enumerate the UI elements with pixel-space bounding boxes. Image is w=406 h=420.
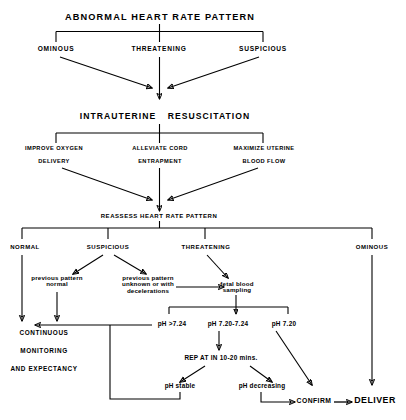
node-ph-decreasing: pH decreasing (239, 383, 286, 390)
connector-tier1-bracket (56, 24, 263, 42)
tier3-branch-suspicious: SUSPICIOUS (87, 244, 130, 250)
tier2-branch-alleviate-line2: ENTRAPMENT (138, 159, 182, 165)
tier3-branch-normal: NORMAL (10, 244, 40, 250)
connector-phdecreasing-to-confirm (261, 392, 295, 402)
outcome-monitoring-line1: CONTINUOUS (20, 330, 69, 337)
outcome-monitoring-line2: MONITORING (20, 348, 67, 355)
tier3-branch-ominous: OMINOUS (356, 244, 389, 250)
tier2-branch-improve-line2: DELIVERY (38, 159, 70, 165)
tier2-branch-improve-line1: IMPROVE OXYGEN (25, 146, 83, 152)
tier1-branch-ominous: OMINOUS (38, 46, 75, 53)
connector-tier1-converge (60, 57, 259, 99)
connector-tier2-converge (62, 168, 258, 211)
node-previous-pattern-unknown-line3: decelerations (122, 288, 174, 294)
outcome-continuous-monitoring: CONTINUOUS (20, 330, 69, 337)
connector-threatening-to-fbs (207, 255, 228, 278)
connector-suspicious-split (73, 255, 146, 274)
page-title: ABNORMAL HEART RATE PATTERN (65, 13, 255, 22)
outcome-deliver: DELIVER (354, 396, 396, 405)
connector-repeat-split (180, 366, 272, 382)
node-fetal-blood-sampling: fetal blood sampling (220, 281, 253, 294)
connector-tier2-bracket (56, 124, 263, 143)
node-ph-mid: pH 7.20-7.24 (208, 321, 249, 328)
node-ph-high: pH >7.24 (158, 321, 187, 328)
tier2-branch-maximize-line1: MAXIMIZE UTERINE (233, 146, 294, 152)
connector-fbs-bracket (169, 295, 288, 314)
tier3-branch-threatening: THREATENING (182, 244, 231, 250)
tier2-branch-maximize-line2: BLOOD FLOW (242, 159, 285, 165)
tier2-branch-alleviate-line1: ALLEVIATE CORD (132, 146, 187, 152)
tier1-branch-suspicious: SUSPICIOUS (239, 46, 287, 53)
node-ph-stable: pH stable (165, 383, 196, 390)
tier3-heading: REASSESS HEART RATE PATTERN (101, 213, 218, 219)
connector-tier3-bracket (22, 221, 372, 239)
node-previous-pattern-normal-line2: normal (31, 281, 82, 287)
tier2-heading-word1: INTRAUTERINE (80, 112, 157, 121)
node-repeat-sampling: REP AT IN 10-20 mins. (184, 355, 257, 362)
node-previous-pattern-normal: previous pattern normal (31, 275, 82, 288)
flowchart-canvas: ABNORMAL HEART RATE PATTERN OMINOUS THRE… (0, 0, 406, 420)
node-ph-low: pH 7.20 (272, 321, 297, 328)
tier2-heading-word2: RESUSCITATION (168, 112, 251, 121)
outcome-monitoring-line3-wrap: AND EXPECTANCY (10, 366, 77, 373)
tier1-branch-threatening: THREATENING (131, 46, 186, 53)
outcome-confirm: CONFIRM (297, 398, 332, 405)
connector-phlow-to-confirm (276, 331, 312, 385)
outcome-monitoring-line3: AND EXPECTANCY (10, 366, 77, 373)
outcome-monitoring-line2-wrap: MONITORING (20, 348, 67, 355)
node-previous-pattern-unknown: previous pattern unknown or with deceler… (122, 275, 174, 294)
node-fetal-blood-sampling-line2: sampling (220, 287, 253, 293)
